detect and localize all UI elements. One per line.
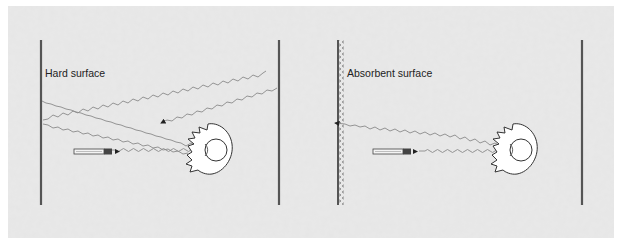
acoustics-diagram: Hard surface Absorbent surface (0, 0, 621, 248)
absorbent-surface-label: Absorbent surface (347, 67, 432, 79)
hard-surface-label: Hard surface (45, 67, 105, 79)
